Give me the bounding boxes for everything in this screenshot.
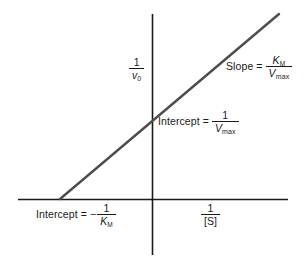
slope-numerator-symbol: K bbox=[273, 54, 280, 66]
y-axis-fraction: 1 v0 bbox=[129, 57, 144, 80]
slope-annotation: Slope = KM Vmax bbox=[226, 55, 292, 78]
x-axis-denominator: [S] bbox=[201, 216, 220, 227]
y-intercept-denominator-subscript: max bbox=[222, 128, 236, 135]
y-intercept-text: Intercept bbox=[158, 116, 200, 127]
slope-numerator-subscript: M bbox=[280, 60, 286, 67]
slope-fraction: KM Vmax bbox=[266, 55, 293, 78]
y-axis-denominator: v0 bbox=[129, 70, 144, 81]
slope-denominator-subscript: max bbox=[276, 73, 290, 80]
x-intercept-denominator-subscript: M bbox=[107, 221, 113, 228]
slope-denominator-symbol: V bbox=[269, 67, 276, 79]
y-axis-numerator: 1 bbox=[131, 57, 143, 68]
y-axis-label: 1 v0 bbox=[129, 57, 144, 80]
y-intercept-denominator: Vmax bbox=[212, 123, 239, 134]
y-intercept-annotation: Intercept = 1 Vmax bbox=[158, 110, 239, 133]
x-intercept-denominator: KM bbox=[97, 216, 116, 227]
x-intercept-minus-sign: − bbox=[90, 209, 96, 220]
slope-equals-sign: = bbox=[256, 61, 262, 72]
plot-canvas bbox=[0, 0, 305, 267]
x-axis-numerator: 1 bbox=[205, 203, 217, 214]
slope-denominator: Vmax bbox=[266, 68, 293, 79]
data-line bbox=[60, 14, 279, 199]
y-intercept-equals-sign: = bbox=[203, 116, 209, 127]
slope-annotation-text: Slope bbox=[226, 61, 253, 72]
y-intercept-numerator: 1 bbox=[219, 110, 231, 121]
slope-numerator: KM bbox=[270, 55, 289, 66]
lineweaver-burk-plot: 1 v0 1 [S] Slope = KM Vmax Intercept = 1… bbox=[0, 0, 305, 267]
x-intercept-annotation: Intercept = − 1 KM bbox=[36, 203, 116, 226]
x-intercept-fraction: 1 KM bbox=[97, 203, 116, 226]
x-intercept-text: Intercept bbox=[36, 209, 78, 220]
x-intercept-numerator: 1 bbox=[101, 203, 113, 214]
y-axis-denominator-subscript: 0 bbox=[137, 75, 141, 82]
x-axis-label: 1 [S] bbox=[201, 203, 220, 226]
y-intercept-fraction: 1 Vmax bbox=[212, 110, 239, 133]
x-intercept-equals-sign: = bbox=[81, 209, 87, 220]
x-axis-fraction: 1 [S] bbox=[201, 203, 220, 226]
